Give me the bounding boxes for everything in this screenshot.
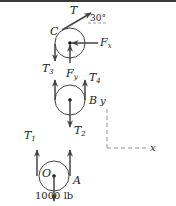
label-t1: T1 (24, 129, 36, 143)
label-t3: T3 (42, 62, 54, 76)
label-x-axis: x (150, 142, 156, 153)
label-y-axis: y (99, 95, 106, 106)
label-load: 1000 lb (35, 190, 73, 201)
label-fx: Fx (99, 36, 112, 50)
label-t4: T4 (89, 71, 101, 85)
label-t: T (70, 4, 79, 17)
label-angle: 30° (90, 13, 106, 23)
label-pulley-b: B (88, 94, 97, 107)
label-pulley-o: O (42, 167, 51, 180)
label-pulley-c: C (50, 25, 59, 38)
label-point-a: A (72, 174, 81, 187)
label-t2: T2 (74, 124, 86, 138)
label-fy: Fy (65, 67, 79, 81)
pulley-diagram: T 30° C Fx Fy T3 T4 B y T2 T1 x O A 1000… (0, 0, 176, 206)
